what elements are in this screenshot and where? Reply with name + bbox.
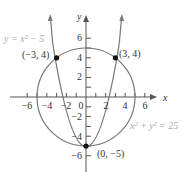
y-tick-label: 2 bbox=[77, 71, 82, 82]
x-tick-label: 4 bbox=[123, 100, 128, 111]
parabola-left-arrow-icon bbox=[48, 14, 53, 21]
y-tick-label: 6 bbox=[77, 32, 82, 43]
x-tick-label: −2 bbox=[61, 100, 72, 111]
x-tick-label: 6 bbox=[143, 100, 148, 111]
point-label: (0, −5) bbox=[97, 148, 124, 160]
y-tick-label: 4 bbox=[77, 52, 82, 63]
point-label: (3, 4) bbox=[119, 48, 141, 60]
x-axis-label: x bbox=[162, 92, 168, 103]
x-tick-label: 2 bbox=[104, 100, 109, 111]
point-3-4 bbox=[113, 55, 118, 60]
chart: −6 −4 −2 0 2 4 6 x 6 4 2 −2 −4 −6 y (−3,… bbox=[0, 0, 189, 176]
parabola-right-arrow-icon bbox=[119, 14, 124, 21]
origin-label: 0 bbox=[79, 100, 84, 111]
y-axis-arrow-icon bbox=[83, 15, 89, 22]
point-neg3-4 bbox=[54, 55, 59, 60]
point-label: (−3, 4) bbox=[22, 49, 49, 61]
y-tick-label: −6 bbox=[71, 150, 82, 161]
y-tick-label: −2 bbox=[71, 111, 82, 122]
parabola-equation: y = x² − 5 bbox=[3, 33, 44, 44]
x-axis-arrow-icon bbox=[150, 94, 157, 100]
x-tick-label: −4 bbox=[42, 100, 53, 111]
circle-equation: x² + y² = 25 bbox=[129, 120, 178, 131]
y-tick-label: −4 bbox=[71, 131, 82, 142]
point-0-neg5 bbox=[83, 143, 88, 148]
x-tick-label: −6 bbox=[22, 100, 33, 111]
y-axis-label: y bbox=[76, 11, 82, 22]
